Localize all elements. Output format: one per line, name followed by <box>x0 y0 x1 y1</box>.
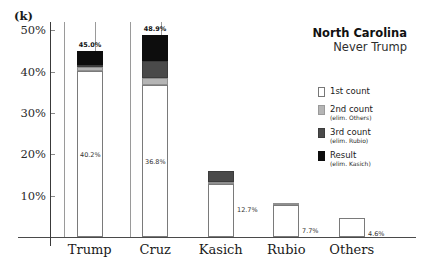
y-tick-30: 30% <box>0 106 46 120</box>
y-tick-50: 50% <box>0 23 46 37</box>
bar-segment-third <box>208 171 234 182</box>
category-separator <box>64 22 65 237</box>
bar-rubio: 7.7% <box>273 0 299 237</box>
x-axis-line <box>18 237 416 238</box>
legend-label: 2nd count <box>330 104 373 114</box>
legend-item-result: Result(elim. Kasich) <box>318 150 373 168</box>
y-tick-label: 40% <box>20 65 46 79</box>
legend-swatch-icon <box>318 151 325 161</box>
legend-swatch-icon <box>318 105 325 115</box>
chart-title-block: North Carolina Never Trump <box>313 26 408 55</box>
y-tick-mark <box>51 30 55 31</box>
legend-swatch-icon <box>318 128 325 138</box>
y-tick-40: 40% <box>0 65 46 79</box>
stacked-bar-chart: (k) 10%20%30%40%50% 45.0%40.2%48.9%36.8%… <box>0 0 429 279</box>
y-axis-line <box>50 22 51 237</box>
legend-note: (elim. Others) <box>330 114 373 122</box>
y-tick-mark <box>51 196 55 197</box>
bar-segment-second <box>273 203 299 205</box>
bar-segment-result <box>77 51 103 65</box>
legend-note: (elim. Rubio) <box>330 137 373 145</box>
bar-base-label: 7.7% <box>302 227 319 235</box>
bar-total-label: 45.0% <box>71 41 109 49</box>
legend-label: 3rd count <box>330 127 373 137</box>
legend-item-third: 3rd count(elim. Rubio) <box>318 127 373 145</box>
bar-segment-second <box>208 182 234 184</box>
y-tick-label: 10% <box>20 189 46 203</box>
y-axis-unit-label: (k) <box>14 9 33 23</box>
chart-title: North Carolina <box>313 26 408 40</box>
legend-label: Result <box>330 150 373 160</box>
bar-segment-first <box>273 205 299 237</box>
bar-segment-second <box>77 67 103 71</box>
y-tick-10: 10% <box>0 189 46 203</box>
y-tick-mark <box>51 72 55 73</box>
bar-segment-result <box>142 35 168 61</box>
bar-total-label: 48.9% <box>136 25 174 33</box>
bar-trump: 45.0%40.2% <box>77 0 103 237</box>
legend-note: (elim. Kasich) <box>330 160 373 168</box>
x-label-others: Others <box>307 242 397 257</box>
legend-item-second: 2nd count(elim. Others) <box>318 104 373 122</box>
category-separator <box>130 22 131 237</box>
bar-base-label: 36.8% <box>145 158 166 166</box>
y-tick-mark <box>51 113 55 114</box>
y-tick-mark <box>51 154 55 155</box>
bar-segment-second <box>142 78 168 85</box>
legend-swatch-icon <box>318 87 325 97</box>
bar-base-label: 40.2% <box>80 151 101 159</box>
chart-subtitle: Never Trump <box>313 40 408 55</box>
y-tick-label: 20% <box>20 147 46 161</box>
y-tick-label: 50% <box>20 23 46 37</box>
bar-base-label: 12.7% <box>237 206 258 214</box>
chart-legend: 1st count2nd count(elim. Others)3rd coun… <box>318 86 373 173</box>
bar-segment-first <box>208 184 234 237</box>
y-tick-label: 30% <box>20 106 46 120</box>
y-tick-20: 20% <box>0 147 46 161</box>
legend-label: 1st count <box>330 86 373 96</box>
bar-segment-third <box>142 61 168 78</box>
legend-item-first: 1st count <box>318 86 373 99</box>
bar-segment-first <box>339 218 365 237</box>
bar-cruz: 48.9%36.8% <box>142 0 168 237</box>
bar-segment-third <box>77 65 103 67</box>
bar-kasich: 12.7% <box>208 0 234 237</box>
